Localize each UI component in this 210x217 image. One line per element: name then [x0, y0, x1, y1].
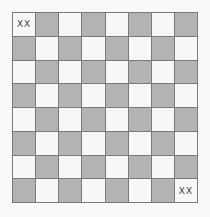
board-cell-r0-c1[interactable] — [36, 13, 58, 36]
board-cell-r2-c5[interactable] — [129, 61, 151, 84]
board-cell-r3-c2[interactable] — [59, 84, 81, 107]
board-cell-r2-c0[interactable] — [13, 61, 35, 84]
board-cell-r6-c2[interactable] — [59, 156, 81, 179]
board-cell-r0-c6[interactable] — [152, 13, 174, 36]
board-cell-r5-c1[interactable] — [36, 132, 58, 155]
board-cell-r3-c1[interactable] — [36, 84, 58, 107]
board-cell-r7-c3[interactable] — [82, 179, 104, 202]
board-cell-r7-c5[interactable] — [129, 179, 151, 202]
board-cell-r7-c0[interactable] — [13, 179, 35, 202]
board-cell-r5-c7[interactable] — [175, 132, 197, 155]
board-cell-r5-c6[interactable] — [152, 132, 174, 155]
board-cell-r1-c6[interactable] — [152, 37, 174, 60]
board-cell-r3-c5[interactable] — [129, 84, 151, 107]
board-cell-r4-c7[interactable] — [175, 108, 197, 131]
board-cell-r5-c5[interactable] — [129, 132, 151, 155]
board-cell-r0-c3[interactable] — [82, 13, 104, 36]
board-cell-r4-c2[interactable] — [59, 108, 81, 131]
board-cell-r0-c4[interactable] — [106, 13, 128, 36]
board-cell-r3-c0[interactable] — [13, 84, 35, 107]
board-cell-r1-c7[interactable] — [175, 37, 197, 60]
board-cell-r2-c1[interactable] — [36, 61, 58, 84]
board-cell-r2-c3[interactable] — [82, 61, 104, 84]
board-cell-r6-c3[interactable] — [82, 156, 104, 179]
board-cell-r1-c4[interactable] — [106, 37, 128, 60]
board-cell-r7-c1[interactable] — [36, 179, 58, 202]
board-cell-r4-c5[interactable] — [129, 108, 151, 131]
board-cell-r4-c6[interactable] — [152, 108, 174, 131]
board-cell-r0-c0[interactable]: XX — [13, 13, 35, 36]
board-cell-r0-c7[interactable] — [175, 13, 197, 36]
board-cell-r3-c4[interactable] — [106, 84, 128, 107]
board-cell-r6-c5[interactable] — [129, 156, 151, 179]
board-cell-r1-c3[interactable] — [82, 37, 104, 60]
board-cell-r7-c2[interactable] — [59, 179, 81, 202]
board-cell-r0-c5[interactable] — [129, 13, 151, 36]
cell-marker-label: XX — [179, 186, 193, 196]
board-cell-r1-c0[interactable] — [13, 37, 35, 60]
board-cell-r6-c6[interactable] — [152, 156, 174, 179]
board-cell-r2-c7[interactable] — [175, 61, 197, 84]
board-cell-r4-c3[interactable] — [82, 108, 104, 131]
board-cell-r5-c0[interactable] — [13, 132, 35, 155]
board-cell-r7-c7[interactable]: XX — [175, 179, 197, 202]
board-cell-r5-c4[interactable] — [106, 132, 128, 155]
board-cell-r6-c1[interactable] — [36, 156, 58, 179]
board-cell-r7-c4[interactable] — [106, 179, 128, 202]
board-cell-r6-c4[interactable] — [106, 156, 128, 179]
board-cell-r4-c0[interactable] — [13, 108, 35, 131]
checkerboard: XXXX — [12, 12, 198, 203]
board-cell-r1-c5[interactable] — [129, 37, 151, 60]
board-cell-r1-c1[interactable] — [36, 37, 58, 60]
cell-marker-label: XX — [17, 19, 31, 29]
board-cell-r0-c2[interactable] — [59, 13, 81, 36]
board-cell-r3-c7[interactable] — [175, 84, 197, 107]
board-cell-r4-c4[interactable] — [106, 108, 128, 131]
board-cell-r5-c3[interactable] — [82, 132, 104, 155]
board-cell-r6-c7[interactable] — [175, 156, 197, 179]
board-cell-r2-c6[interactable] — [152, 61, 174, 84]
board-cell-r7-c6[interactable] — [152, 179, 174, 202]
board-cell-r4-c1[interactable] — [36, 108, 58, 131]
board-cell-r2-c2[interactable] — [59, 61, 81, 84]
board-cell-r6-c0[interactable] — [13, 156, 35, 179]
board-cell-r3-c3[interactable] — [82, 84, 104, 107]
board-cell-r3-c6[interactable] — [152, 84, 174, 107]
board-cell-r1-c2[interactable] — [59, 37, 81, 60]
board-cell-r2-c4[interactable] — [106, 61, 128, 84]
board-cell-r5-c2[interactable] — [59, 132, 81, 155]
